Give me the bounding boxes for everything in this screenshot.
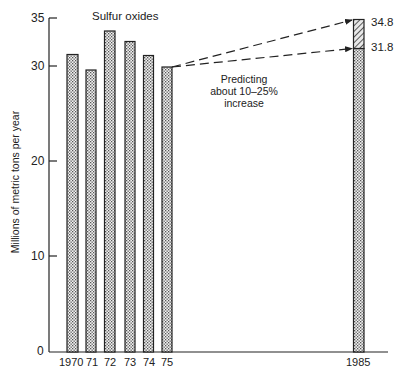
x-tick-label-1970: 1970 <box>59 356 83 368</box>
bar-1971 <box>86 70 96 352</box>
x-tick-label-1985: 1985 <box>346 356 370 368</box>
bar-1970 <box>67 55 78 353</box>
annotation-line-1: Predicting <box>214 73 274 85</box>
chart <box>0 0 403 375</box>
x-tick-label-74: 74 <box>143 356 155 368</box>
y-tick-label-10: 10 <box>31 249 44 263</box>
bar-1972 <box>105 31 116 352</box>
bar-1973 <box>125 42 135 353</box>
x-tick-label-72: 72 <box>104 356 116 368</box>
projection-high-label: 34.8 <box>371 16 393 28</box>
bar-1985-base <box>354 49 365 353</box>
x-tick-label-75: 75 <box>161 356 173 368</box>
y-axis-label: Millions of metric tons per year <box>9 97 21 267</box>
projection-low-label: 31.8 <box>371 41 393 53</box>
chart-title: Sulfur oxides <box>92 10 158 22</box>
x-tick-label-73: 73 <box>124 356 136 368</box>
y-tick-label-35: 35 <box>31 11 44 25</box>
bars <box>67 20 364 353</box>
projection-arrows <box>172 20 352 67</box>
y-ticks <box>49 18 57 256</box>
y-tick-label-20: 20 <box>31 154 44 168</box>
bar-1974 <box>144 56 154 353</box>
y-tick-label-0: 0 <box>37 344 44 358</box>
annotation-line-3: increase <box>214 97 274 109</box>
bar-1985-projection <box>354 20 365 49</box>
bar-1975 <box>162 67 172 352</box>
y-tick-label-30: 30 <box>31 59 44 73</box>
x-tick-label-71: 71 <box>86 356 98 368</box>
annotation-line-2: about 10–25% <box>204 85 284 97</box>
